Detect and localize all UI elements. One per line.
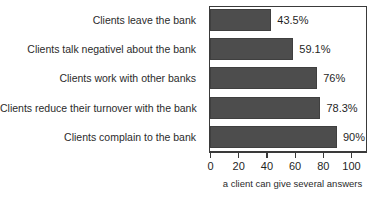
bar-value-label: 43.5% <box>271 14 308 26</box>
bar <box>210 97 320 119</box>
bar-row: 59.1% <box>210 38 367 60</box>
bar <box>210 38 293 60</box>
bar-row: 43.5% <box>210 9 367 31</box>
x-axis-tick-label: 100 <box>342 160 360 172</box>
category-label-column: Clients leave the bankClients talk negat… <box>0 6 203 152</box>
bar <box>210 9 271 31</box>
x-axis-tick <box>351 152 352 158</box>
bar-row: 76% <box>210 67 367 89</box>
x-axis-tick <box>210 152 211 158</box>
x-axis-tick <box>323 152 324 158</box>
bar <box>210 126 337 148</box>
category-label: Clients complain to the bank <box>0 131 196 143</box>
chart-annotation: a client can give several answers <box>209 178 376 189</box>
x-axis-tick <box>295 152 296 158</box>
x-axis-tick-label: 80 <box>317 160 329 172</box>
bars-layer: 43.5%59.1%76%78.3%90% <box>210 6 367 152</box>
bar-value-label: 90% <box>337 131 365 143</box>
x-axis-tick <box>238 152 239 158</box>
category-label: Clients reduce their turnover with the b… <box>0 102 196 114</box>
x-axis-tick-label: 0 <box>207 160 213 172</box>
bar-value-label: 78.3% <box>320 102 357 114</box>
bar-chart: Clients leave the bankClients talk negat… <box>0 0 376 197</box>
x-axis-tick-label: 60 <box>289 160 301 172</box>
x-axis-tick <box>266 152 267 158</box>
bar-value-label: 76% <box>317 72 345 84</box>
category-label: Clients leave the bank <box>0 14 196 26</box>
bar-row: 90% <box>210 126 367 148</box>
category-label: Clients talk negativel about the bank <box>0 43 196 55</box>
bar-row: 78.3% <box>210 97 367 119</box>
x-axis-tick-label: 20 <box>233 160 245 172</box>
bar-value-label: 59.1% <box>293 43 330 55</box>
bar <box>210 67 317 89</box>
category-label: Clients work with other banks <box>0 72 196 84</box>
x-axis: 020406080100 <box>0 152 376 178</box>
x-axis-line <box>209 152 367 153</box>
x-axis-tick-label: 40 <box>261 160 273 172</box>
